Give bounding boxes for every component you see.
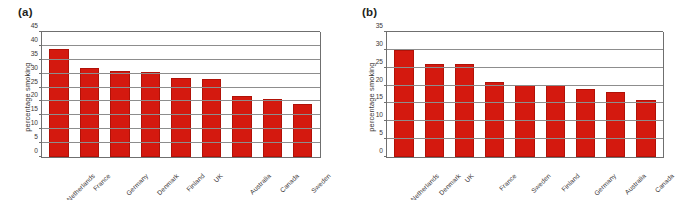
bar-sweden[interactable]	[293, 104, 312, 157]
y-tick-label: 40	[31, 35, 42, 42]
panel-a-plot-area: 051015202530354045	[41, 32, 321, 158]
gridline	[42, 100, 320, 101]
y-tick-mark	[384, 49, 387, 50]
y-tick-mark	[39, 59, 42, 60]
y-tick-mark	[39, 128, 42, 129]
figure-two-bar-charts: (a) percentage smoking 05101520253035404…	[0, 0, 687, 200]
x-axis-label: Canada	[653, 172, 675, 194]
gridline	[387, 67, 663, 68]
bar-france[interactable]	[80, 68, 99, 157]
x-axis-label: Finland	[185, 172, 206, 193]
bar-denmark[interactable]	[425, 64, 444, 157]
y-tick-label: 0	[34, 147, 42, 154]
bar-australia[interactable]	[232, 96, 251, 157]
y-tick-mark	[39, 114, 42, 115]
panel-a-label: (a)	[18, 6, 33, 18]
y-tick-mark	[39, 142, 42, 143]
x-axis-label: Australia	[249, 172, 273, 196]
y-tick-label: 25	[31, 77, 42, 84]
y-tick-label: 30	[376, 39, 387, 46]
bar-canada[interactable]	[636, 100, 655, 157]
y-tick-label: 35	[376, 22, 387, 29]
x-axis-label: Canada	[279, 172, 301, 194]
y-tick-label: 5	[34, 133, 42, 140]
x-axis-label: Denmark	[155, 172, 179, 196]
y-tick-mark	[39, 73, 42, 74]
y-tick-label: 10	[376, 111, 387, 118]
y-tick-mark	[39, 31, 42, 32]
y-tick-mark	[384, 67, 387, 68]
y-tick-mark	[39, 156, 42, 157]
y-tick-mark	[384, 156, 387, 157]
bar-netherlands[interactable]	[49, 49, 68, 157]
panel-a: (a) percentage smoking 05101520253035404…	[0, 0, 344, 200]
panel-a-bars	[42, 32, 320, 157]
gridline	[42, 142, 320, 143]
y-tick-mark	[384, 138, 387, 139]
bar-slot	[257, 32, 287, 157]
y-tick-mark	[384, 85, 387, 86]
bar-slot	[227, 32, 257, 157]
bar-slot	[44, 32, 74, 157]
gridline	[42, 73, 320, 74]
y-tick-label: 5	[379, 129, 387, 136]
gridline	[42, 114, 320, 115]
gridline	[42, 59, 320, 60]
gridline	[387, 120, 663, 121]
bar-uk[interactable]	[455, 64, 474, 157]
x-axis-label: Australia	[623, 172, 647, 196]
bar-uk[interactable]	[202, 79, 221, 157]
gridline	[387, 102, 663, 103]
gridline	[42, 128, 320, 129]
y-tick-mark	[384, 120, 387, 121]
bar-slot	[288, 32, 318, 157]
bar-germany[interactable]	[576, 89, 595, 157]
x-axis-label: UK	[212, 172, 224, 184]
y-tick-mark	[39, 100, 42, 101]
bar-slot	[105, 32, 135, 157]
bar-slot	[74, 32, 104, 157]
bar-slot	[196, 32, 226, 157]
y-tick-label: 20	[376, 75, 387, 82]
x-axis-label: Netherlands	[410, 172, 441, 200]
y-tick-label: 45	[31, 22, 42, 29]
y-tick-label: 25	[376, 57, 387, 64]
panel-b-y-axis-title: percentage smoking	[367, 42, 376, 152]
y-tick-label: 30	[31, 63, 42, 70]
bar-slot	[166, 32, 196, 157]
x-axis-label: Finland	[560, 172, 581, 193]
x-axis-label: France	[498, 172, 518, 192]
panel-b-plot-area: 05101520253035	[386, 32, 664, 158]
y-tick-label: 15	[376, 93, 387, 100]
y-tick-label: 20	[31, 91, 42, 98]
x-axis-label: Sweden	[310, 172, 332, 194]
gridline	[42, 87, 320, 88]
panel-b: (b) percentage smoking 05101520253035 Ne…	[344, 0, 687, 200]
gridline	[387, 31, 663, 32]
x-axis-label: UK	[463, 172, 475, 184]
y-tick-mark	[384, 102, 387, 103]
y-tick-mark	[384, 31, 387, 32]
panel-a-x-axis-labels: NetherlandsFranceGermanyDenmarkFinlandUK…	[41, 160, 321, 200]
y-tick-label: 15	[31, 105, 42, 112]
x-axis-label: Denmark	[438, 172, 462, 196]
bar-finland[interactable]	[171, 78, 190, 157]
y-tick-label: 10	[31, 119, 42, 126]
x-axis-label: Sweden	[530, 172, 552, 194]
bar-slot	[135, 32, 165, 157]
panel-b-x-axis-labels: NetherlandsDenmarkUKFranceSwedenFinlandG…	[386, 160, 664, 200]
x-axis-label: Germany	[592, 172, 617, 197]
panel-b-label: (b)	[362, 6, 377, 18]
gridline	[387, 49, 663, 50]
y-tick-mark	[39, 45, 42, 46]
y-tick-label: 35	[31, 49, 42, 56]
gridline	[42, 45, 320, 46]
gridline	[387, 85, 663, 86]
x-axis-label: Germany	[124, 172, 149, 197]
y-tick-mark	[39, 87, 42, 88]
gridline	[387, 138, 663, 139]
y-tick-label: 0	[379, 147, 387, 154]
gridline	[42, 31, 320, 32]
